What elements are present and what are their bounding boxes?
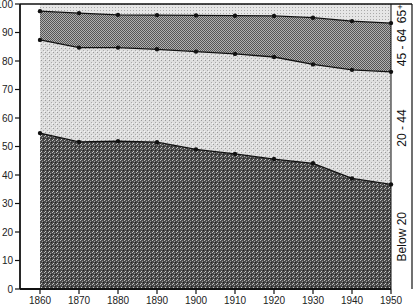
data-point [272, 55, 276, 59]
data-point [77, 11, 81, 15]
y-tick-label: 100 [0, 0, 13, 10]
x-tick-label: 1880 [107, 295, 130, 306]
data-point [194, 13, 198, 17]
x-tick-label: 1950 [380, 295, 403, 306]
label-65-plus: 65⁺ [395, 4, 409, 23]
y-tick-label: 20 [2, 227, 14, 238]
data-point [233, 13, 237, 17]
data-point [38, 9, 42, 13]
data-point [350, 176, 354, 180]
band-labels: Below 2020 - 4445 - 6465⁺ [395, 4, 409, 262]
data-point [194, 49, 198, 53]
y-tick-label: 50 [2, 141, 14, 152]
data-point [311, 62, 315, 66]
label-20-44: 20 - 44 [395, 109, 409, 147]
y-tick-label: 70 [2, 84, 14, 95]
data-point [311, 15, 315, 19]
stacked-area-chart: 0102030405060708090100186018701880189019… [0, 0, 413, 308]
data-point [77, 45, 81, 49]
y-tick-label: 60 [2, 113, 14, 124]
data-point [77, 140, 81, 144]
data-point [155, 140, 159, 144]
y-tick-label: 30 [2, 198, 14, 209]
data-point [155, 47, 159, 51]
x-tick-label: 1860 [29, 295, 52, 306]
data-point [155, 13, 159, 17]
data-point [116, 13, 120, 17]
x-tick-label: 1870 [68, 295, 91, 306]
data-point [38, 131, 42, 135]
y-tick-label: 10 [2, 255, 14, 266]
label-45-64: 45 - 64 [395, 28, 409, 66]
data-point [38, 38, 42, 42]
x-tick-label: 1900 [185, 295, 208, 306]
data-point [311, 161, 315, 165]
y-tick-label: 0 [7, 284, 13, 295]
x-tick-label: 1910 [224, 295, 247, 306]
data-point [272, 14, 276, 18]
data-point [233, 152, 237, 156]
x-tick-label: 1890 [146, 295, 169, 306]
area-bands [40, 4, 391, 289]
x-tick-label: 1940 [341, 295, 364, 306]
y-tick-label: 80 [2, 56, 14, 67]
label-below-20: Below 20 [395, 212, 409, 262]
y-tick-label: 90 [2, 27, 14, 38]
data-point [272, 157, 276, 161]
data-point [194, 147, 198, 151]
x-tick-label: 1920 [263, 295, 286, 306]
data-point [116, 139, 120, 143]
data-point [116, 45, 120, 49]
x-tick-label: 1930 [302, 295, 325, 306]
data-point [233, 52, 237, 56]
data-point [350, 68, 354, 72]
data-point [350, 19, 354, 23]
y-tick-label: 40 [2, 170, 14, 181]
